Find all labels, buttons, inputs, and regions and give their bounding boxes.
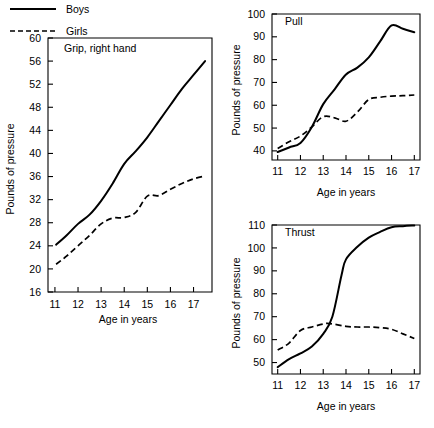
svg-text:11: 11 xyxy=(272,379,283,391)
pull-tick-marks xyxy=(272,14,414,160)
grip-y-axis-label: Pounds of pressure xyxy=(4,123,16,214)
svg-text:11: 11 xyxy=(272,165,283,177)
svg-text:12: 12 xyxy=(295,379,307,391)
svg-text:16: 16 xyxy=(165,298,177,310)
grip-x-axis-label: Age in years xyxy=(99,313,157,325)
chart-panel-pull: 405060708090100 11121314151617 Pull Poun… xyxy=(228,0,434,206)
svg-text:40: 40 xyxy=(29,147,41,159)
svg-text:50: 50 xyxy=(253,356,265,368)
svg-text:70: 70 xyxy=(253,310,265,322)
figure-root: 162024283236404448525660 11121314151617 … xyxy=(0,0,434,428)
svg-text:17: 17 xyxy=(408,165,420,177)
pull-chart-svg: 405060708090100 11121314151617 Pull Poun… xyxy=(228,0,434,206)
thrust-y-tick-labels: 5060708090100110 xyxy=(247,219,265,369)
svg-text:17: 17 xyxy=(408,379,420,391)
svg-text:11: 11 xyxy=(49,298,60,310)
svg-text:100: 100 xyxy=(247,242,265,254)
chart-panel-grip: 162024283236404448525660 11121314151617 … xyxy=(0,4,226,334)
svg-text:24: 24 xyxy=(29,239,41,251)
thrust-y-axis-label: Pounds of pressure xyxy=(230,257,242,348)
svg-text:90: 90 xyxy=(253,264,265,276)
svg-text:14: 14 xyxy=(118,298,130,310)
svg-text:90: 90 xyxy=(253,30,265,42)
svg-text:100: 100 xyxy=(247,8,265,20)
grip-tick-marks xyxy=(48,38,194,292)
svg-text:13: 13 xyxy=(317,379,329,391)
thrust-x-axis-label: Age in years xyxy=(317,400,375,412)
svg-text:56: 56 xyxy=(29,55,41,67)
pull-x-axis-label: Age in years xyxy=(317,186,375,198)
grip-plot-frame xyxy=(48,38,212,292)
svg-text:14: 14 xyxy=(340,379,352,391)
svg-text:80: 80 xyxy=(253,53,265,65)
svg-text:16: 16 xyxy=(29,286,41,298)
svg-text:13: 13 xyxy=(317,165,329,177)
grip-y-tick-labels: 162024283236404448525660 xyxy=(29,32,41,298)
thrust-series-girls xyxy=(278,323,415,350)
svg-text:36: 36 xyxy=(29,170,41,182)
pull-series-girls xyxy=(278,95,415,149)
pull-series-boys xyxy=(278,25,415,152)
svg-text:40: 40 xyxy=(253,144,265,156)
svg-text:52: 52 xyxy=(29,78,41,90)
svg-text:60: 60 xyxy=(253,333,265,345)
svg-text:70: 70 xyxy=(253,76,265,88)
svg-text:32: 32 xyxy=(29,193,41,205)
svg-text:80: 80 xyxy=(253,287,265,299)
svg-text:60: 60 xyxy=(29,32,41,44)
svg-text:16: 16 xyxy=(386,165,398,177)
pull-y-axis-label: Pounds of pressure xyxy=(230,44,242,135)
svg-text:14: 14 xyxy=(340,165,352,177)
svg-text:15: 15 xyxy=(141,298,153,310)
thrust-plot-frame xyxy=(272,225,420,374)
thrust-x-tick-labels: 11121314151617 xyxy=(272,379,420,391)
thrust-panel-title: Thrust xyxy=(285,226,315,238)
svg-text:28: 28 xyxy=(29,216,41,228)
svg-text:60: 60 xyxy=(253,99,265,111)
grip-series-boys xyxy=(56,61,205,245)
svg-text:17: 17 xyxy=(188,298,200,310)
pull-panel-title: Pull xyxy=(285,15,303,27)
grip-series-girls xyxy=(56,176,205,264)
grip-panel-title: Grip, right hand xyxy=(64,42,137,54)
pull-plot-frame xyxy=(272,14,420,160)
svg-text:12: 12 xyxy=(72,298,84,310)
thrust-tick-marks xyxy=(272,225,414,374)
svg-text:13: 13 xyxy=(95,298,107,310)
svg-text:20: 20 xyxy=(29,263,41,275)
svg-text:48: 48 xyxy=(29,101,41,113)
chart-panel-thrust: 5060708090100110 11121314151617 Thrust P… xyxy=(228,208,434,420)
pull-x-tick-labels: 11121314151617 xyxy=(272,165,420,177)
svg-text:15: 15 xyxy=(363,379,375,391)
svg-text:12: 12 xyxy=(295,165,307,177)
grip-x-tick-labels: 11121314151617 xyxy=(49,298,199,310)
svg-text:15: 15 xyxy=(363,165,375,177)
svg-text:110: 110 xyxy=(248,219,265,231)
pull-y-tick-labels: 405060708090100 xyxy=(247,8,265,157)
svg-text:16: 16 xyxy=(386,379,398,391)
thrust-chart-svg: 5060708090100110 11121314151617 Thrust P… xyxy=(228,208,434,420)
svg-text:50: 50 xyxy=(253,122,265,134)
svg-text:44: 44 xyxy=(29,124,41,136)
grip-chart-svg: 162024283236404448525660 11121314151617 … xyxy=(0,4,226,334)
thrust-series-boys xyxy=(278,225,415,367)
